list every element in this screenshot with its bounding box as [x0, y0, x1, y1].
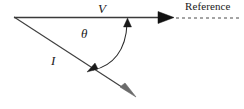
angle-arc-arrowhead-upper	[124, 18, 132, 27]
current-vector-line	[14, 17, 128, 91]
reference-label: Reference	[185, 1, 230, 12]
angle-label: θ	[81, 27, 87, 40]
current-label: I	[51, 54, 55, 67]
voltage-label: V	[98, 2, 106, 15]
phasor-diagram-figure: V I θ Reference	[0, 0, 244, 109]
voltage-vector-arrowhead	[158, 12, 174, 24]
phasor-diagram-canvas	[0, 0, 244, 109]
current-vector-arrowhead	[120, 83, 136, 97]
angle-arc	[93, 24, 127, 70]
